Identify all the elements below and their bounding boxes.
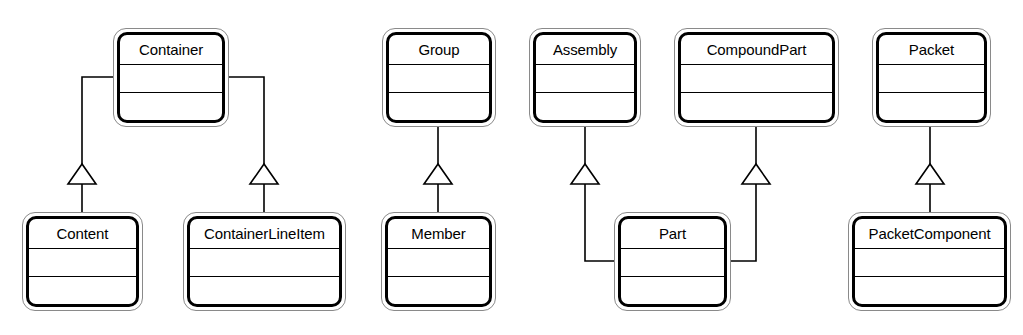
class-operations-compartment (536, 93, 634, 120)
class-box-body: Content (26, 216, 139, 307)
class-operations-compartment (681, 93, 832, 120)
class-name-label: Member (411, 226, 465, 242)
class-name-compartment: Group (389, 35, 489, 65)
class-operations-compartment (621, 277, 724, 304)
class-name-compartment: Member (388, 219, 489, 249)
class-name-compartment: CompoundPart (681, 35, 832, 65)
class-name-label: Part (659, 226, 686, 242)
class-box-part[interactable]: Part (614, 212, 731, 311)
class-operations-compartment (190, 277, 339, 304)
generalization-packetcomponent-to-packet[interactable] (916, 127, 944, 212)
class-operations-compartment (120, 93, 222, 120)
class-name-label: Packet (909, 42, 954, 58)
class-box-body: Packet (876, 32, 987, 123)
class-box-containerlineitem[interactable]: ContainerLineItem (183, 212, 346, 311)
class-operations-compartment (388, 277, 489, 304)
class-box-container[interactable]: Container (113, 28, 229, 127)
generalization-content-to-container[interactable] (68, 77, 113, 212)
class-attributes-compartment (389, 65, 489, 93)
class-box-body: Container (117, 32, 225, 123)
class-box-body: Part (618, 216, 727, 307)
class-attributes-compartment (190, 249, 339, 277)
class-attributes-compartment (536, 65, 634, 93)
class-name-compartment: Container (120, 35, 222, 65)
class-box-packetcomponent[interactable]: PacketComponent (848, 212, 1011, 311)
class-box-packet[interactable]: Packet (872, 28, 991, 127)
class-box-body: PacketComponent (852, 216, 1007, 307)
class-operations-compartment (29, 277, 136, 304)
class-name-label: Group (418, 42, 459, 58)
class-operations-compartment (879, 93, 984, 120)
class-attributes-compartment (388, 249, 489, 277)
uml-class-diagram: Container Group Assembly CompoundPart (0, 0, 1023, 335)
class-name-label: Container (139, 42, 203, 58)
class-name-label: CompoundPart (707, 42, 807, 58)
generalization-part-to-assembly[interactable] (571, 127, 614, 261)
class-name-compartment: Content (29, 219, 136, 249)
class-name-compartment: Packet (879, 35, 984, 65)
generalization-part-to-compoundpart[interactable] (731, 127, 770, 261)
class-box-body: Member (385, 216, 492, 307)
class-operations-compartment (855, 277, 1004, 304)
class-name-label: ContainerLineItem (204, 226, 325, 242)
class-attributes-compartment (879, 65, 984, 93)
class-box-body: Group (386, 32, 492, 123)
class-attributes-compartment (29, 249, 136, 277)
class-name-compartment: Part (621, 219, 724, 249)
class-box-body: CompoundPart (678, 32, 835, 123)
class-attributes-compartment (120, 65, 222, 93)
class-attributes-compartment (855, 249, 1004, 277)
class-operations-compartment (389, 93, 489, 120)
class-attributes-compartment (621, 249, 724, 277)
generalization-member-to-group[interactable] (424, 127, 452, 212)
class-name-compartment: ContainerLineItem (190, 219, 339, 249)
class-box-compoundpart[interactable]: CompoundPart (674, 28, 839, 127)
class-box-content[interactable]: Content (22, 212, 143, 311)
class-attributes-compartment (681, 65, 832, 93)
class-name-label: Assembly (553, 42, 617, 58)
class-name-compartment: Assembly (536, 35, 634, 65)
class-name-label: Content (57, 226, 109, 242)
generalization-containerlineitem-to-container[interactable] (229, 77, 278, 212)
class-box-body: Assembly (533, 32, 637, 123)
class-name-compartment: PacketComponent (855, 219, 1004, 249)
class-box-body: ContainerLineItem (187, 216, 342, 307)
class-box-member[interactable]: Member (381, 212, 496, 311)
class-box-assembly[interactable]: Assembly (529, 28, 641, 127)
class-box-group[interactable]: Group (382, 28, 496, 127)
class-name-label: PacketComponent (869, 226, 991, 242)
